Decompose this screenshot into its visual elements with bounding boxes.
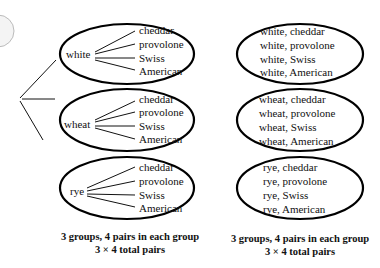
cheese-label: provolone [139, 175, 184, 187]
pair-label: wheat, cheddar [259, 93, 326, 105]
tree-caption: 3 groups, 4 pairs in each group 3 × 4 to… [40, 230, 220, 256]
bread-label-rye: rye [70, 185, 84, 197]
pair-label: rye, American [263, 203, 325, 215]
cheese-label: American [139, 202, 182, 214]
cheese-label: American [139, 65, 182, 77]
root-branches [20, 60, 56, 140]
cheese-label: Swiss [139, 52, 165, 64]
pair-label: rye, Swiss [263, 189, 308, 201]
cheese-label: Swiss [139, 189, 165, 201]
cheese-label: cheddar [139, 24, 174, 36]
pair-label: rye, cheddar [263, 161, 317, 173]
pair-label: white, provolone [260, 39, 335, 51]
tree-caption-line2: 3 × 4 total pairs [40, 243, 220, 256]
pair-label: wheat, American [259, 135, 334, 147]
fan-lines [87, 31, 135, 207]
pair-label: white, American [260, 66, 333, 78]
pairs-caption: 3 groups, 4 pairs in each group 3 × 4 to… [210, 232, 380, 258]
cheese-label: Swiss [139, 120, 165, 132]
bread-label-wheat: wheat [64, 118, 90, 130]
pair-label: rye, provolone [263, 175, 327, 187]
cheese-label: American [139, 133, 182, 145]
cheese-label: cheddar [139, 161, 174, 173]
pair-label: wheat, provolone [259, 107, 335, 119]
bread-label-white: white [66, 48, 90, 60]
pair-label: white, cheddar [260, 25, 325, 37]
cheese-label: provolone [139, 38, 184, 50]
pair-label: wheat, Swiss [259, 121, 316, 133]
corner-circle-decoration [0, 15, 14, 47]
pairs-caption-line2: 3 × 4 total pairs [210, 245, 380, 258]
tree-caption-line1: 3 groups, 4 pairs in each group [40, 230, 220, 243]
cheese-label: cheddar [139, 93, 174, 105]
pair-label: white, Swiss [260, 53, 316, 65]
cheese-label: provolone [139, 106, 184, 118]
pairs-caption-line1: 3 groups, 4 pairs in each group [210, 232, 380, 245]
